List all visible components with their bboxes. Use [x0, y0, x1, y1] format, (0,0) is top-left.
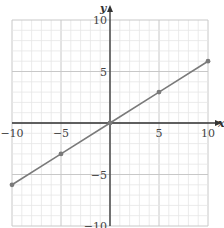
y-tick-label: 5 — [100, 66, 107, 79]
x-tick-label: 10 — [201, 127, 215, 140]
data-point — [157, 90, 162, 95]
x-tick-label: −10 — [0, 127, 23, 140]
axes: x y — [12, 2, 224, 226]
line-chart: x y −10 −5 5 10 10 5 −5 −10 — [0, 0, 224, 228]
data-point — [108, 121, 113, 126]
x-tick-label: −5 — [53, 127, 69, 140]
tick-labels: −10 −5 5 10 10 5 −5 −10 — [0, 14, 215, 228]
y-tick-label: 10 — [93, 14, 107, 27]
x-axis-label: x — [217, 117, 224, 130]
y-tick-label: −5 — [91, 169, 107, 182]
data-point — [206, 59, 211, 64]
data-point — [10, 182, 15, 187]
y-axis-arrow-icon — [107, 5, 113, 12]
y-tick-label: −10 — [84, 220, 107, 228]
data-point — [59, 152, 64, 157]
x-tick-label: 5 — [156, 127, 163, 140]
